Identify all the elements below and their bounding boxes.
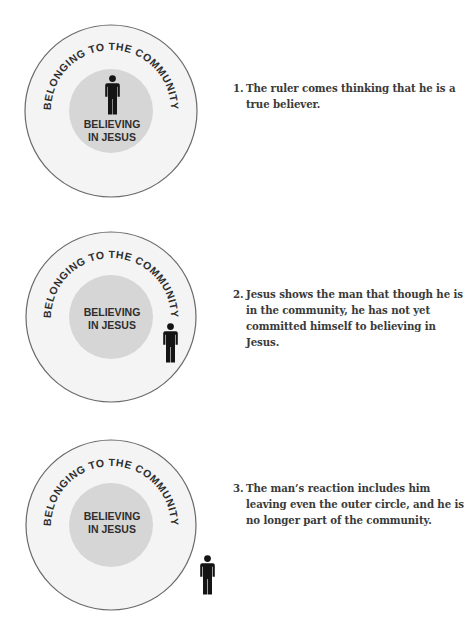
caption-number: 2. [233,286,246,302]
caption-2: 2.Jesus shows the man that though he is … [233,286,469,350]
inner-circle-label-line2: IN JESUS [88,131,136,143]
caption-number: 1. [233,80,246,96]
community-diagram-3: BELONGING TO THE COMMUNITY BELIEVING IN … [0,414,230,625]
inner-circle-label-line1: BELIEVING [84,118,141,130]
caption-text: The man’s reaction includes him leaving … [246,482,464,526]
person-icon [200,555,215,594]
panel-1: BELONGING TO THE COMMUNITY BELIEVING IN … [0,0,457,210]
caption-1: 1.The ruler comes thinking that he is a … [233,80,469,112]
caption-text: Jesus shows the man that though he is in… [246,288,463,348]
inner-circle-label-line2: IN JESUS [88,319,136,331]
caption-text: The ruler comes thinking that he is a tr… [246,82,455,110]
panel-2: BELONGING TO THE COMMUNITY BELIEVING IN … [0,206,457,416]
community-diagram-1: BELONGING TO THE COMMUNITY BELIEVING IN … [0,0,230,210]
caption-3: 3.The man’s reaction includes him leavin… [233,480,469,528]
inner-circle-label-line1: BELIEVING [84,306,141,318]
community-diagram-2: BELONGING TO THE COMMUNITY BELIEVING IN … [0,206,230,416]
panel-3: BELONGING TO THE COMMUNITY BELIEVING IN … [0,414,457,625]
inner-circle-label-line2: IN JESUS [88,523,136,535]
caption-number: 3. [233,480,246,496]
inner-circle-label-line1: BELIEVING [84,510,141,522]
